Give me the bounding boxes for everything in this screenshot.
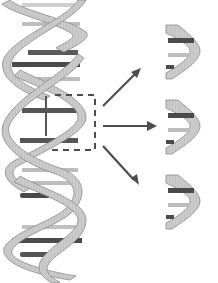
arrow-down-right xyxy=(103,146,139,185)
arrow-right xyxy=(103,121,157,131)
arrows xyxy=(103,68,157,185)
dna-diagram xyxy=(0,0,218,283)
fragment-2 xyxy=(166,100,200,154)
helix-axis-marker xyxy=(45,96,47,136)
dna-helix xyxy=(2,0,87,283)
fragment-1 xyxy=(166,25,200,79)
arrow-up-right xyxy=(103,68,141,106)
fragment-3 xyxy=(166,175,200,229)
